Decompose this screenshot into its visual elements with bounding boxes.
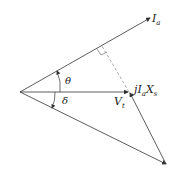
theta-arc	[57, 71, 60, 92]
delta-arc	[52, 92, 55, 108]
jiaxs-phasor	[130, 93, 166, 164]
projection-dashed-line	[102, 46, 129, 92]
theta-label: θ	[65, 76, 71, 86]
e-phasor	[20, 92, 166, 164]
vt-label: Vt	[114, 96, 125, 110]
ia-label: Ia	[152, 13, 161, 27]
delta-label: δ	[62, 96, 68, 106]
ia-phasor	[20, 18, 150, 92]
jiaxs-label: jIaXs	[134, 84, 157, 98]
